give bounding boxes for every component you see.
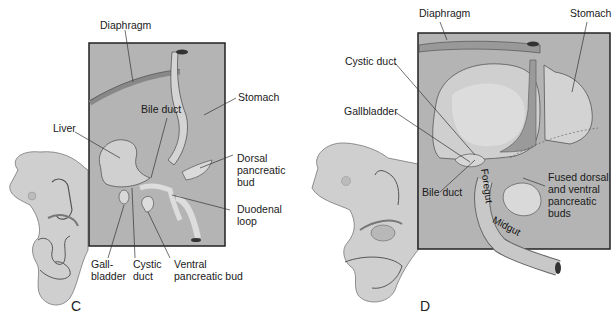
- label-cystic-duct-c-2: duct: [133, 271, 153, 283]
- panel-letter-c: C: [71, 298, 81, 314]
- label-ventral-bud-c-2: pancreatic bud: [174, 271, 243, 283]
- label-stomach-d: Stomach: [570, 8, 611, 20]
- embryo-c: [10, 152, 88, 305]
- label-cystic-duct-c-1: Cystic: [133, 259, 162, 271]
- label-bile-duct-c: Bile duct: [141, 104, 181, 116]
- label-duodenal-loop-c-2: loop: [237, 216, 257, 228]
- label-gallbladder-d: Gallbladder: [344, 106, 398, 118]
- label-cystic-duct-d: Cystic duct: [345, 56, 396, 68]
- label-dorsal-bud-c-3: bud: [237, 177, 255, 189]
- label-stomach-c: Stomach: [238, 92, 279, 104]
- label-bile-duct-d: Bile duct: [422, 187, 462, 199]
- panel-letter-d: D: [420, 298, 430, 314]
- label-dorsal-bud-c-2: pancreatic: [237, 165, 285, 177]
- label-ventral-bud-c-1: Ventral: [174, 259, 207, 271]
- embryology-figure: Diaphragm Stomach Bile duct Liver Dorsal…: [0, 0, 613, 316]
- label-fused-buds-d-3: pancreatic: [548, 196, 596, 208]
- label-liver-c: Liver: [53, 123, 76, 135]
- label-gallbladder-c-1: Gall-: [91, 259, 113, 271]
- label-dorsal-bud-c-1: Dorsal: [237, 153, 267, 165]
- label-fused-buds-d-4: buds: [548, 208, 571, 220]
- label-diaphragm-c: Diaphragm: [100, 20, 151, 32]
- embryo-d: [312, 143, 418, 302]
- label-gallbladder-c-2: bladder: [91, 271, 126, 283]
- label-fused-buds-d-1: Fused dorsal: [548, 172, 609, 184]
- label-duodenal-loop-c-1: Duodenal: [237, 204, 282, 216]
- label-fused-buds-d-2: and ventral: [548, 184, 600, 196]
- label-diaphragm-d: Diaphragm: [419, 8, 470, 20]
